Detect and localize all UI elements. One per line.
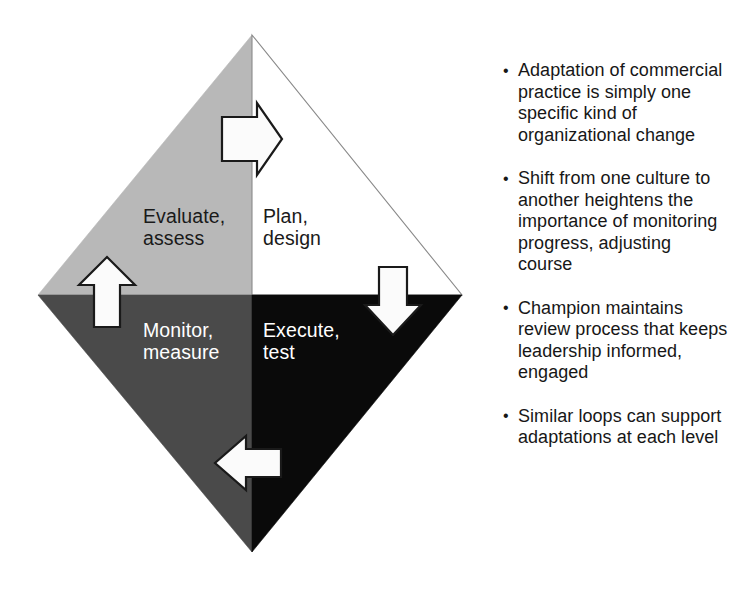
quadrant-execute-test bbox=[252, 295, 462, 552]
bullet-text: Champion maintains review process that k… bbox=[518, 298, 728, 384]
bullet-marker-icon: • bbox=[503, 60, 509, 82]
list-item: • Adaptation of commercial practice is s… bbox=[503, 60, 728, 146]
bullet-text: Shift from one culture to another height… bbox=[518, 168, 728, 276]
bullet-list: • Adaptation of commercial practice is s… bbox=[503, 60, 728, 449]
list-item: • Shift from one culture to another heig… bbox=[503, 168, 728, 276]
bullet-text: Adaptation of commercial practice is sim… bbox=[518, 60, 728, 146]
cycle-diagram-svg bbox=[0, 0, 500, 590]
quadrant-evaluate-assess bbox=[38, 35, 252, 295]
bullet-marker-icon: • bbox=[503, 168, 509, 190]
page-root: Evaluate, assess Plan, design Monitor, m… bbox=[0, 0, 736, 590]
bullet-marker-icon: • bbox=[503, 297, 509, 319]
bullet-text: Similar loops can support adaptations at… bbox=[518, 406, 728, 449]
quadrant-plan-design bbox=[252, 35, 462, 295]
quadrant-monitor-measure bbox=[38, 295, 252, 552]
list-item: • Champion maintains review process that… bbox=[503, 298, 728, 384]
bullet-marker-icon: • bbox=[503, 405, 509, 427]
list-item: • Similar loops can support adaptations … bbox=[503, 406, 728, 449]
adaptation-cycle-diagram: Evaluate, assess Plan, design Monitor, m… bbox=[0, 0, 500, 590]
